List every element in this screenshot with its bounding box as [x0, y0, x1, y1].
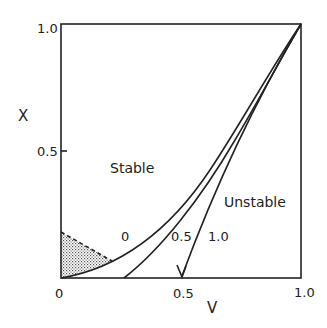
- unstable-label: Unstable: [224, 194, 286, 210]
- y-axis-label: X: [18, 107, 28, 125]
- curve-label-10: 1.0: [208, 229, 229, 244]
- y-tick-label-05: 0.5: [37, 144, 58, 159]
- curve-label-05: 0.5: [171, 229, 192, 244]
- curve-label-0: 0: [121, 229, 129, 244]
- x-tick-label-05: 0.5: [173, 286, 194, 301]
- x-axis-label: V: [207, 299, 218, 317]
- y-tick-label-10: 1.0: [37, 21, 58, 36]
- x-tick-label-10: 1.0: [294, 285, 315, 300]
- stable-label: Stable: [110, 160, 154, 176]
- curve-10: [182, 24, 301, 276]
- x-tick-label-0: 0: [55, 286, 63, 301]
- phase-diagram: 1.0 0.5 0 0.5 1.0 X V Stable Unstable 0 …: [0, 0, 327, 328]
